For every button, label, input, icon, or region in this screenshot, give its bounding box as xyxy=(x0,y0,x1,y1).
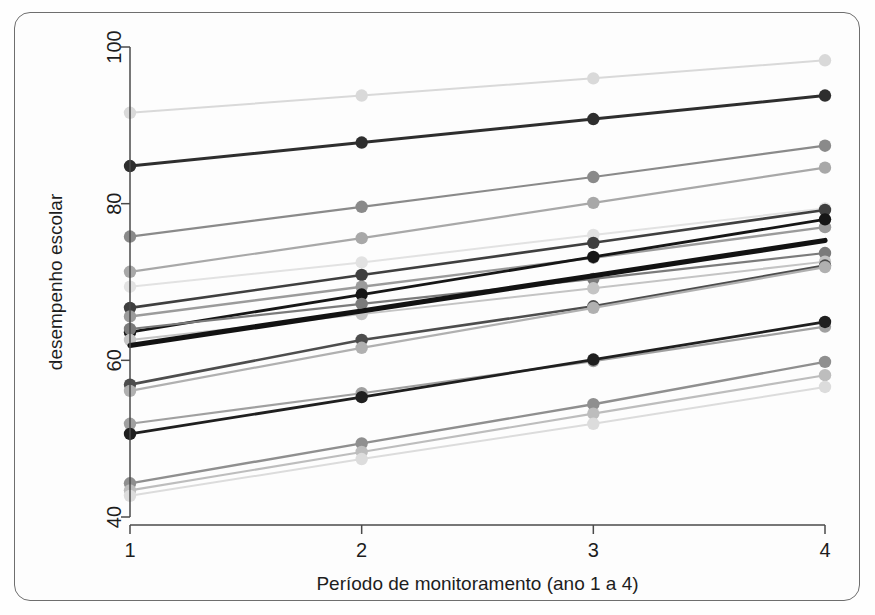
data-point xyxy=(819,140,831,152)
series-line-subject-13 xyxy=(130,327,825,424)
series-line-subject-17 xyxy=(130,387,825,496)
data-point xyxy=(355,453,367,465)
series-subject-16 xyxy=(124,369,831,497)
series-subject-15 xyxy=(124,356,831,490)
axes-group xyxy=(121,47,825,534)
data-point xyxy=(355,136,367,148)
data-point xyxy=(587,418,599,430)
data-point xyxy=(819,356,831,368)
y-tick-label-60: 60 xyxy=(103,349,125,371)
data-point xyxy=(819,381,831,393)
growth-trajectory-chart: 4060801001234Período de monitoramento (a… xyxy=(0,0,875,615)
series-subject-05 xyxy=(124,202,831,293)
series-line-subject-07 xyxy=(130,227,825,316)
series-line-subject-03 xyxy=(130,146,825,237)
data-point xyxy=(587,113,599,125)
data-point xyxy=(587,72,599,84)
data-point xyxy=(587,197,599,209)
data-point xyxy=(819,261,831,273)
x-tick-label-4: 4 xyxy=(819,539,830,561)
series-line-subject-11 xyxy=(130,266,825,385)
data-point xyxy=(355,391,367,403)
x-axis-title: Período de monitoramento (ano 1 a 4) xyxy=(316,573,638,594)
data-point xyxy=(355,256,367,268)
data-point xyxy=(355,201,367,213)
data-point xyxy=(355,269,367,281)
x-tick-label-3: 3 xyxy=(588,539,599,561)
data-point xyxy=(355,342,367,354)
data-point xyxy=(819,161,831,173)
data-point xyxy=(819,369,831,381)
series-line-subject-14 xyxy=(130,322,825,434)
data-point xyxy=(819,89,831,101)
series-line-subject-15 xyxy=(130,362,825,483)
x-tick-label-1: 1 xyxy=(124,539,135,561)
data-point xyxy=(819,316,831,328)
data-point xyxy=(587,251,599,263)
series-line-subject-16 xyxy=(130,375,825,490)
data-point xyxy=(819,54,831,66)
series-line-subject-02 xyxy=(130,96,825,167)
y-tick-label-100: 100 xyxy=(103,30,125,63)
data-point xyxy=(587,282,599,294)
data-point xyxy=(819,213,831,225)
data-point xyxy=(587,353,599,365)
x-tick-label-2: 2 xyxy=(356,539,367,561)
series-group xyxy=(124,54,831,502)
series-subject-01 xyxy=(124,54,831,119)
series-subject-11 xyxy=(124,259,831,390)
y-tick-label-80: 80 xyxy=(103,193,125,215)
data-point xyxy=(587,171,599,183)
y-tick-label-40: 40 xyxy=(103,506,125,528)
data-point xyxy=(587,237,599,249)
y-axis-title: desempenho escolar xyxy=(45,193,66,370)
data-point xyxy=(587,302,599,314)
series-subject-14 xyxy=(124,316,831,440)
figure-container: 4060801001234Período de monitoramento (a… xyxy=(0,0,875,615)
series-subject-17 xyxy=(124,381,831,502)
data-point xyxy=(355,89,367,101)
data-point xyxy=(355,232,367,244)
